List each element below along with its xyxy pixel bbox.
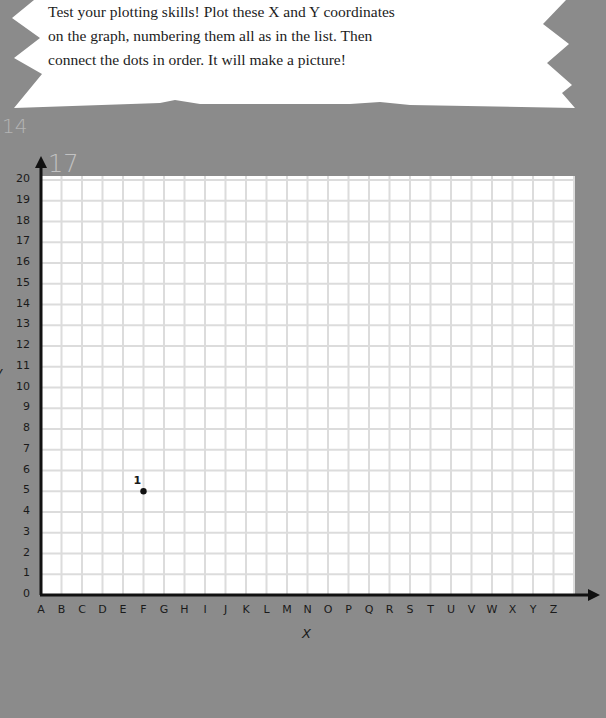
- x-axis-arrow-icon: [588, 589, 600, 601]
- x-tick-q: Q: [361, 603, 377, 616]
- x-tick-l: L: [259, 603, 275, 616]
- x-tick-x: X: [505, 603, 521, 616]
- x-tick-k: K: [238, 603, 254, 616]
- y-tick-17: 17: [6, 234, 30, 247]
- x-tick-y: Y: [525, 603, 541, 616]
- point-label-1: 1: [134, 474, 142, 487]
- x-tick-g: G: [156, 603, 172, 616]
- y-tick-10: 10: [6, 380, 30, 393]
- x-tick-z: Z: [546, 603, 562, 616]
- x-tick-p: P: [341, 603, 357, 616]
- x-tick-s: S: [402, 603, 418, 616]
- y-tick-12: 12: [6, 338, 30, 351]
- x-tick-b: B: [54, 603, 70, 616]
- y-tick-3: 3: [6, 525, 30, 538]
- x-tick-a: A: [33, 603, 49, 616]
- x-tick-d: D: [95, 603, 111, 616]
- x-tick-m: M: [279, 603, 295, 616]
- y-tick-11: 11: [6, 359, 30, 372]
- y-axis-arrow-icon: [35, 156, 47, 168]
- x-tick-h: H: [177, 603, 193, 616]
- y-tick-5: 5: [6, 483, 30, 496]
- y-tick-15: 15: [6, 276, 30, 289]
- y-tick-18: 18: [6, 214, 30, 227]
- y-tick-9: 9: [6, 400, 30, 413]
- plotted-points: [140, 488, 146, 494]
- x-tick-c: C: [74, 603, 90, 616]
- y-tick-2: 2: [6, 546, 30, 559]
- y-tick-13: 13: [6, 317, 30, 330]
- y-tick-16: 16: [6, 255, 30, 268]
- y-tick-7: 7: [6, 442, 30, 455]
- x-tick-u: U: [443, 603, 459, 616]
- plotted-point-1: [140, 488, 146, 494]
- x-tick-w: W: [484, 603, 500, 616]
- y-tick-14: 14: [6, 297, 30, 310]
- y-tick-1: 1: [6, 566, 30, 579]
- y-tick-0: 0: [6, 587, 30, 600]
- x-tick-f: F: [136, 603, 152, 616]
- coordinate-grid-chart: 01234567891011121314151617181920 ABCDEFG…: [0, 0, 606, 718]
- y-axis-title: y: [0, 364, 3, 379]
- x-tick-i: I: [197, 603, 213, 616]
- x-tick-t: T: [423, 603, 439, 616]
- x-tick-j: J: [218, 603, 234, 616]
- x-tick-e: E: [115, 603, 131, 616]
- x-tick-o: O: [320, 603, 336, 616]
- x-axis-title: X: [302, 626, 311, 641]
- y-tick-20: 20: [6, 172, 30, 185]
- y-tick-8: 8: [6, 421, 30, 434]
- y-tick-4: 4: [6, 504, 30, 517]
- y-tick-19: 19: [6, 193, 30, 206]
- x-tick-r: R: [382, 603, 398, 616]
- x-tick-v: V: [464, 603, 480, 616]
- y-tick-6: 6: [6, 463, 30, 476]
- x-tick-n: N: [300, 603, 316, 616]
